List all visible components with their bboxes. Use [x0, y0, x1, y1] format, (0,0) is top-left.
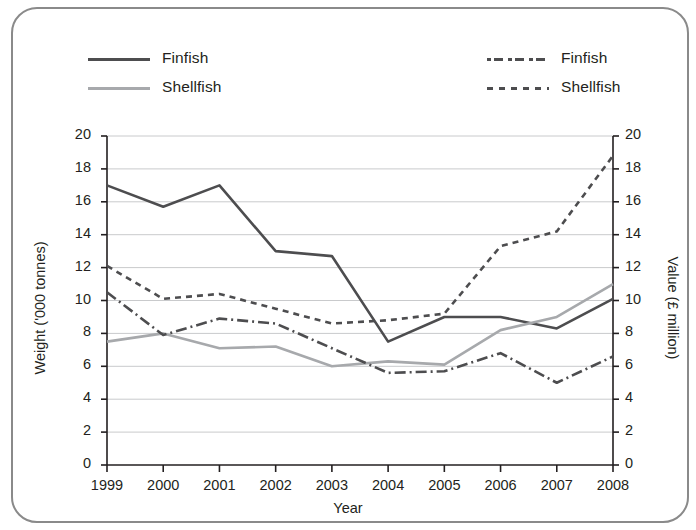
y-axis-right-tick-label: 4 [625, 389, 655, 405]
x-axis-title: Year [0, 500, 696, 516]
plot-area [0, 0, 696, 530]
gridlines [107, 136, 613, 432]
x-axis-tick-label: 2007 [527, 477, 587, 493]
axis-ticks [101, 136, 619, 472]
y-axis-right-tick-label: 10 [625, 291, 655, 307]
series-line-finfish-left [107, 185, 613, 341]
y-axis-right-tick-label: 2 [625, 422, 655, 438]
y-axis-left-title: Weight ('000 tonnes) [32, 208, 48, 408]
x-axis-tick-label: 2003 [302, 477, 362, 493]
y-axis-right-tick-label: 0 [625, 455, 655, 471]
y-axis-left-tick-label: 2 [61, 422, 91, 438]
x-axis-tick-label: 2002 [246, 477, 306, 493]
chart-figure: Finfish Shellfish Finfish Shellfish 0246… [0, 0, 696, 530]
x-axis-tick-label: 2008 [583, 477, 643, 493]
y-axis-left-tick-label: 8 [61, 323, 91, 339]
y-axis-left-tick-label: 4 [61, 389, 91, 405]
y-axis-left-tick-label: 16 [61, 192, 91, 208]
y-axis-left-tick-label: 10 [61, 291, 91, 307]
y-axis-left-tick-label: 14 [61, 225, 91, 241]
y-axis-left-tick-label: 20 [61, 126, 91, 142]
y-axis-right-tick-label: 12 [625, 258, 655, 274]
y-axis-right-tick-label: 20 [625, 126, 655, 142]
y-axis-left-tick-label: 0 [61, 455, 91, 471]
x-axis-tick-label: 2000 [133, 477, 193, 493]
y-axis-right-tick-label: 16 [625, 192, 655, 208]
y-axis-right-title: Value (£ million) [665, 208, 681, 408]
x-axis-tick-label: 2004 [358, 477, 418, 493]
y-axis-right-tick-label: 14 [625, 225, 655, 241]
y-axis-left-tick-label: 12 [61, 258, 91, 274]
x-axis-tick-label: 1999 [77, 477, 137, 493]
y-axis-right-tick-label: 8 [625, 323, 655, 339]
y-axis-left-tick-label: 6 [61, 356, 91, 372]
data-series [107, 156, 613, 383]
x-axis-tick-label: 2005 [414, 477, 474, 493]
y-axis-left-tick-label: 18 [61, 159, 91, 175]
y-axis-right-tick-label: 6 [625, 356, 655, 372]
y-axis-right-tick-label: 18 [625, 159, 655, 175]
x-axis-tick-label: 2006 [471, 477, 531, 493]
x-axis-tick-label: 2001 [189, 477, 249, 493]
